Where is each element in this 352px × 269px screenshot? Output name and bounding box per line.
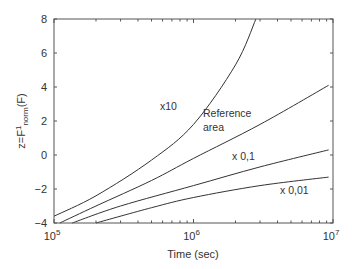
y-tick-label: −4 [34,217,47,229]
curve-annotation: area [203,121,224,133]
x-tick-label: 106 [183,228,200,242]
series-line-1 [60,85,329,223]
curve-annotation: Reference [203,107,252,119]
x-tick-label: 107 [323,228,340,242]
y-tick-label: 2 [41,115,47,127]
y-tick-label: −2 [34,183,47,195]
x-tick-labels: 105106107 [44,228,340,242]
y-axis-label: z=F1norm(F) [14,93,30,148]
y-tick-label: 0 [41,149,47,161]
chart-root: −4−202468 105106107 x10Referenceareax 0,… [0,0,352,269]
curve-annotation: x10 [160,100,177,112]
x-axis-label: Time (sec) [167,248,219,260]
line-chart: −4−202468 105106107 x10Referenceareax 0,… [0,0,352,269]
y-tick-labels: −4−202468 [34,13,47,229]
x-tick-label: 105 [44,228,61,242]
y-tick-label: 4 [41,81,47,93]
curve-annotation: x 0,01 [280,184,309,196]
y-tick-label: 6 [41,47,47,59]
y-tick-label: 8 [41,13,47,25]
curve-annotation: x 0,1 [232,150,255,162]
